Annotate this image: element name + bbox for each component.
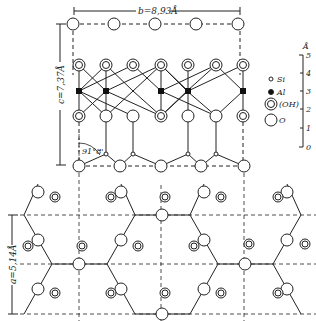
scale-tick-2: 2	[305, 105, 311, 114]
legend-symbols	[265, 77, 277, 126]
legend-label-oh: (OH)	[279, 100, 299, 109]
legend-label-si: Si	[277, 75, 285, 84]
scale-tick-0: 0	[306, 143, 311, 152]
scale-tick-4: 4	[305, 69, 311, 78]
mid-row	[73, 110, 249, 122]
o-symbol-icon	[265, 114, 277, 126]
network-oxygens	[32, 186, 293, 320]
scale-tick-3: 3	[306, 87, 311, 96]
legend-label-al: Al	[276, 88, 286, 97]
legend-label-o: O	[279, 116, 286, 125]
si-symbol-icon	[269, 77, 273, 81]
hydroxyl-row-top	[73, 59, 249, 71]
network-hydroxyls	[23, 192, 310, 298]
scale-tick-5: 5	[306, 51, 311, 60]
oh-symbol-icon	[265, 98, 277, 110]
al-symbol-icon	[269, 90, 274, 95]
scale-unit-label: Å	[302, 42, 309, 51]
aluminum-atoms	[76, 88, 246, 94]
scale-tick-1: 1	[306, 124, 311, 133]
angle-label: 91°8'	[82, 147, 103, 156]
structure-diagram: b=8,93Å c=7,37Å 91°8' a=5,14Å Si Al (OH)…	[0, 0, 316, 321]
c-dimension-label: c=7,37Å	[55, 65, 66, 104]
angstrom-scale	[299, 55, 303, 147]
b-dimension-label: b=8,93Å	[138, 5, 178, 16]
a-dimension-label: a=5,14Å	[7, 245, 18, 284]
